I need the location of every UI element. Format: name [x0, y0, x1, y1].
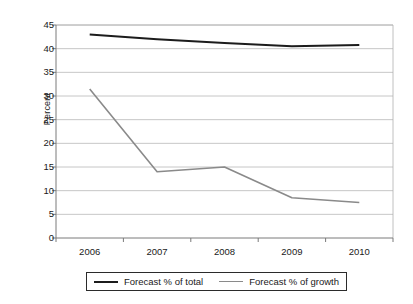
x-axis-tick-label: 2006: [67, 247, 113, 257]
line-chart: Percent 051015202530354045 2006200720082…: [0, 0, 413, 304]
x-axis-tick-label: 2008: [202, 247, 248, 257]
legend-label-total: Forecast % of total: [124, 277, 203, 287]
legend-entry-growth: Forecast % of growth: [219, 277, 339, 287]
legend-label-growth: Forecast % of growth: [249, 277, 339, 287]
legend-entry-total: Forecast % of total: [94, 277, 203, 287]
chart-legend: Forecast % of total Forecast % of growth: [86, 272, 347, 291]
legend-line-swatch-growth: [219, 281, 243, 282]
legend-line-swatch-total: [94, 281, 118, 283]
x-axis-tick-labels: 20062007200820092010: [0, 0, 413, 304]
x-axis-tick-label: 2007: [134, 247, 180, 257]
x-axis-tick-label: 2009: [269, 247, 315, 257]
x-axis-tick-label: 2010: [336, 247, 382, 257]
